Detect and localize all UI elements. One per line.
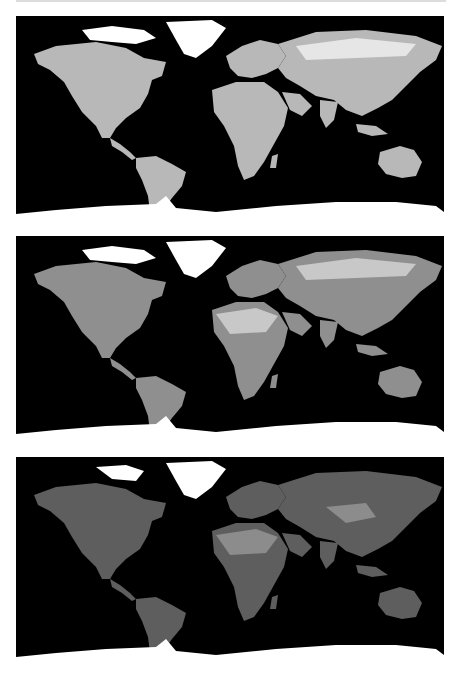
world-map-panel-3 xyxy=(16,457,444,665)
world-map-panel-2 xyxy=(16,236,444,443)
world-map-3 xyxy=(16,457,444,665)
world-map-panel-1 xyxy=(16,16,444,223)
cut-off-header-text xyxy=(16,0,446,3)
world-map-1 xyxy=(16,16,444,223)
world-map-2 xyxy=(16,236,444,443)
